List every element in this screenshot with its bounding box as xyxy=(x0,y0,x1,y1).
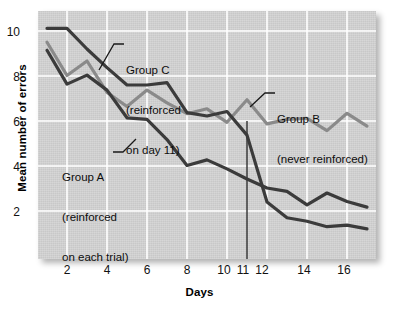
annotation-group-a: Group A (reinforced on each trial) xyxy=(62,145,128,290)
chart-figure: 10 8 6 4 2 2 4 6 8 10 11 12 14 16 Mean n… xyxy=(0,0,399,317)
annotation-group-c-line-2: (reinforced xyxy=(126,104,181,117)
annotation-group-b: Group B (never reinforced) xyxy=(277,87,368,193)
leader-group-b xyxy=(250,93,275,107)
annotation-group-c-line-1: Group C xyxy=(126,64,181,77)
leader-group-c xyxy=(99,44,124,70)
annotation-group-c: Group C (reinforced on day 11) xyxy=(126,38,181,183)
annotation-group-c-line-3: on day 11) xyxy=(126,144,181,157)
annotation-group-b-line-2: (never reinforced) xyxy=(277,153,368,166)
annotation-group-a-line-3: on each trial) xyxy=(62,251,128,264)
annotation-group-b-line-1: Group B xyxy=(277,113,368,126)
annotation-group-a-line-1: Group A xyxy=(62,171,128,184)
annotation-group-a-line-2: (reinforced xyxy=(62,211,128,224)
